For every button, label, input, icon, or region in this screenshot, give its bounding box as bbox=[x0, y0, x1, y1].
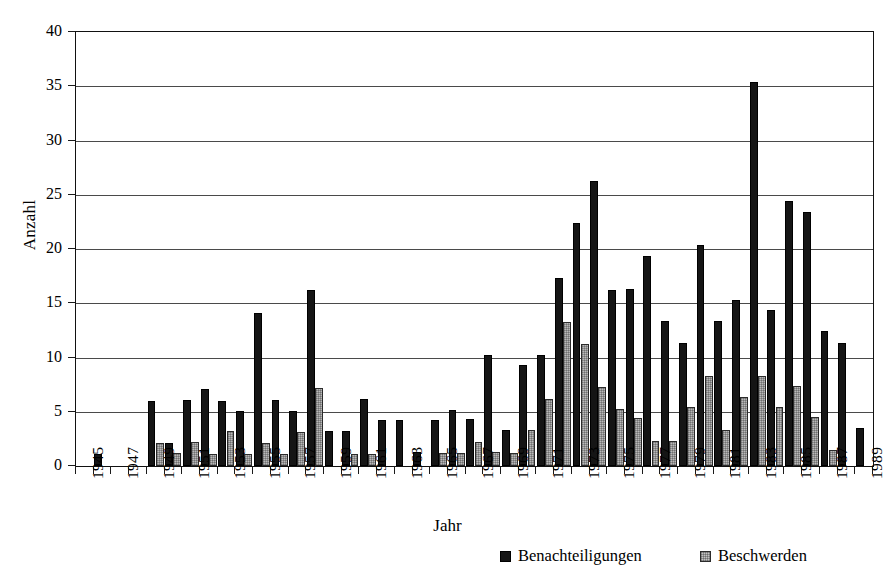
y-tick-label: 0 bbox=[28, 457, 62, 473]
y-tick-mark bbox=[68, 31, 75, 32]
y-tick-mark bbox=[68, 357, 75, 358]
x-tick-label: 1951 bbox=[196, 447, 212, 479]
bar bbox=[555, 278, 563, 466]
x-tick-mark bbox=[465, 466, 466, 474]
x-tick-mark bbox=[500, 466, 501, 474]
bar bbox=[183, 400, 191, 466]
y-tick-mark bbox=[68, 85, 75, 86]
y-tick-label: 5 bbox=[28, 403, 62, 419]
y-tick-mark bbox=[68, 411, 75, 412]
x-tick-mark bbox=[854, 466, 855, 474]
y-tick-label: 40 bbox=[28, 23, 62, 39]
x-tick-label: 1969 bbox=[515, 447, 531, 479]
bar bbox=[697, 245, 705, 466]
bar bbox=[750, 82, 758, 466]
bar bbox=[325, 431, 333, 466]
y-tick-label: 20 bbox=[28, 240, 62, 256]
bar bbox=[714, 321, 722, 466]
x-tick-label: 1953 bbox=[232, 447, 248, 479]
bar bbox=[643, 256, 651, 466]
y-tick-mark bbox=[68, 140, 75, 141]
bar bbox=[856, 428, 864, 466]
bar-chart: Anzahl 0510152025303540 1945194719491951… bbox=[0, 0, 895, 579]
x-tick-label: 1979 bbox=[692, 447, 708, 479]
bar bbox=[360, 399, 368, 466]
bar bbox=[767, 310, 775, 466]
x-tick-mark bbox=[748, 466, 749, 474]
plot-area bbox=[75, 31, 874, 467]
chart-legend: BenachteiligungenBeschwerden bbox=[500, 546, 895, 572]
x-tick-mark bbox=[429, 466, 430, 474]
x-tick-mark bbox=[75, 466, 76, 474]
bar bbox=[679, 343, 687, 466]
bar bbox=[289, 411, 297, 466]
y-tick-mark bbox=[68, 302, 75, 303]
x-tick-label: 1961 bbox=[373, 447, 389, 479]
x-tick-label: 1975 bbox=[621, 447, 637, 479]
x-tick-mark bbox=[146, 466, 147, 474]
x-tick-mark bbox=[217, 466, 218, 474]
x-tick-label: 1963 bbox=[409, 447, 425, 479]
y-tick-mark bbox=[68, 194, 75, 195]
x-tick-mark bbox=[323, 466, 324, 474]
x-tick-label: 1949 bbox=[161, 447, 177, 479]
bar bbox=[821, 331, 829, 466]
y-tick-mark bbox=[68, 465, 75, 466]
y-tick-label: 25 bbox=[28, 186, 62, 202]
x-tick-mark bbox=[252, 466, 253, 474]
x-tick-label: 1945 bbox=[90, 447, 106, 479]
y-tick-label: 30 bbox=[28, 132, 62, 148]
legend-label: Benachteiligungen bbox=[518, 546, 642, 566]
x-tick-label: 1989 bbox=[869, 447, 885, 479]
x-tick-label: 1957 bbox=[302, 447, 318, 479]
x-tick-label: 1985 bbox=[798, 447, 814, 479]
x-tick-label: 1981 bbox=[727, 447, 743, 479]
x-tick-mark bbox=[642, 466, 643, 474]
x-tick-label: 1977 bbox=[657, 447, 673, 479]
bar bbox=[502, 430, 510, 466]
x-tick-mark bbox=[819, 466, 820, 474]
x-tick-label: 1987 bbox=[834, 447, 850, 479]
x-tick-label: 1973 bbox=[586, 447, 602, 479]
x-tick-mark bbox=[181, 466, 182, 474]
y-axis-title: Anzahl bbox=[20, 165, 40, 285]
bar bbox=[608, 290, 616, 466]
x-tick-mark bbox=[394, 466, 395, 474]
bar bbox=[626, 289, 634, 466]
x-axis-title: Jahr bbox=[0, 516, 895, 536]
bar bbox=[590, 181, 598, 466]
bar bbox=[785, 201, 793, 466]
bar-group bbox=[76, 32, 873, 466]
legend-item: Beschwerden bbox=[700, 546, 807, 566]
x-tick-mark bbox=[783, 466, 784, 474]
bar bbox=[148, 401, 156, 466]
bar bbox=[563, 322, 571, 466]
bar bbox=[466, 419, 474, 466]
bar bbox=[537, 355, 545, 466]
y-tick-label: 15 bbox=[28, 294, 62, 310]
bar bbox=[396, 420, 404, 466]
y-tick-label: 10 bbox=[28, 349, 62, 365]
legend-label: Beschwerden bbox=[718, 546, 807, 566]
x-tick-label: 1983 bbox=[763, 447, 779, 479]
bar bbox=[573, 223, 581, 466]
x-tick-label: 1959 bbox=[338, 447, 354, 479]
bar bbox=[307, 290, 315, 466]
bar bbox=[661, 321, 669, 466]
x-tick-mark bbox=[713, 466, 714, 474]
x-tick-mark bbox=[110, 466, 111, 474]
y-tick-label: 35 bbox=[28, 77, 62, 93]
x-tick-mark bbox=[606, 466, 607, 474]
x-tick-mark bbox=[677, 466, 678, 474]
x-tick-label: 1965 bbox=[444, 447, 460, 479]
bar bbox=[431, 420, 439, 466]
x-tick-mark bbox=[358, 466, 359, 474]
x-tick-mark bbox=[535, 466, 536, 474]
y-tick-mark bbox=[68, 248, 75, 249]
x-tick-label: 1947 bbox=[125, 447, 141, 479]
x-tick-label: 1955 bbox=[267, 447, 283, 479]
x-tick-mark bbox=[288, 466, 289, 474]
bar bbox=[803, 212, 811, 466]
legend-item: Benachteiligungen bbox=[500, 546, 642, 566]
legend-swatch-1 bbox=[700, 551, 711, 562]
